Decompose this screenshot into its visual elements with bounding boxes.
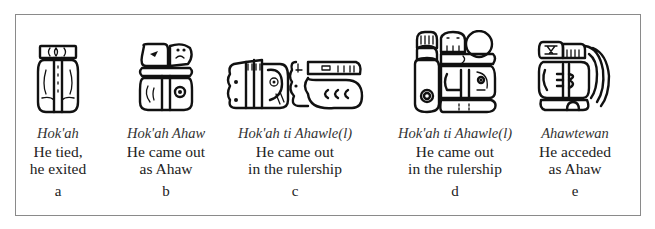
translation-line: He came out [116, 143, 216, 161]
translation-line: He acceded [525, 143, 625, 161]
transliteration: Ahawtewan [525, 125, 625, 143]
caption-a: Hok'ah He tied, he exited [8, 125, 108, 178]
panel-e: Ahawtewan He acceded as Ahaw e [525, 0, 625, 229]
panel-b: Hok'ah Ahaw He came out as Ahaw b [116, 0, 216, 229]
caption-e: Ahawtewan He acceded as Ahaw [525, 125, 625, 178]
hokah-ahaw-glyph-icon [138, 42, 194, 112]
transliteration: Hok'ah ti Ahawle(l) [385, 125, 525, 143]
transliteration: Hok'ah ti Ahawle(l) [225, 125, 365, 143]
hokah-ti-ahawlel-glyph-horizontal-icon [226, 56, 364, 112]
panel-c: Hok'ah ti Ahawle(l) He came out in the r… [225, 0, 365, 229]
panel-a: Hok'ah He tied, he exited a [8, 0, 108, 229]
caption-d: Hok'ah ti Ahawle(l) He came out in the r… [385, 125, 525, 178]
translation-line: in the rulership [385, 160, 525, 178]
translation-line: He came out [385, 143, 525, 161]
ahawtewan-glyph-icon [537, 40, 613, 112]
hokah-glyph-icon [36, 44, 80, 114]
translation-line: as Ahaw [525, 160, 625, 178]
panel-label: c [225, 183, 365, 200]
translation-line: he exited [8, 160, 108, 178]
panel-label: d [385, 183, 525, 200]
panel-d: Hok'ah ti Ahawle(l) He came out in the r… [385, 0, 525, 229]
translation-line: He came out [225, 143, 365, 161]
transliteration: Hok'ah Ahaw [116, 125, 216, 143]
hokah-ti-ahawlel-glyph-compound-icon [413, 30, 497, 114]
transliteration: Hok'ah [8, 125, 108, 143]
translation-line: as Ahaw [116, 160, 216, 178]
panel-label: a [8, 183, 108, 200]
caption-b: Hok'ah Ahaw He came out as Ahaw [116, 125, 216, 178]
caption-c: Hok'ah ti Ahawle(l) He came out in the r… [225, 125, 365, 178]
translation-line: in the rulership [225, 160, 365, 178]
panel-label: e [525, 183, 625, 200]
translation-line: He tied, [8, 143, 108, 161]
panel-label: b [116, 183, 216, 200]
